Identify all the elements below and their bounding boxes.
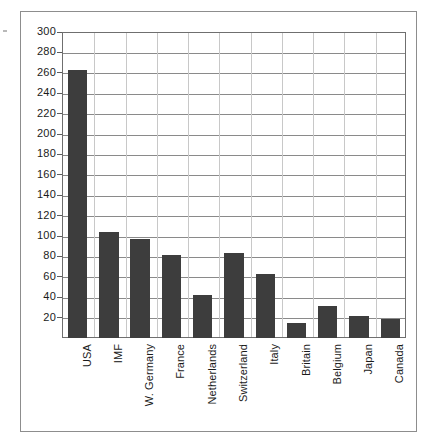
bar[interactable] — [287, 323, 306, 338]
bar[interactable] — [130, 239, 149, 338]
x-axis-tick-label: IMF — [113, 344, 124, 363]
y-axis-tick — [57, 174, 62, 175]
y-axis-tick-label: 220 — [26, 108, 56, 119]
y-axis-tick — [57, 317, 62, 318]
y-axis-tick — [57, 236, 62, 237]
y-axis-tick-label: 140 — [26, 189, 56, 200]
x-axis-tick-label: Japan — [363, 344, 374, 374]
y-axis-tick — [57, 297, 62, 298]
y-axis-tick-label: 60 — [26, 271, 56, 282]
x-axis-tick-label: Netherlands — [207, 344, 218, 404]
x-axis-tick-label: W. Germany — [144, 344, 155, 406]
y-axis: 2040608010012014016018020022024026028030… — [24, 0, 56, 445]
y-axis-tick-label: 80 — [26, 250, 56, 261]
x-axis-tick-label: France — [175, 344, 186, 379]
bar[interactable] — [349, 316, 368, 338]
y-axis-tick — [57, 154, 62, 155]
y-axis-tick-label: 40 — [26, 291, 56, 302]
x-axis-tick-label: Canada — [394, 344, 405, 383]
y-axis-tick-label: 280 — [26, 46, 56, 57]
bar[interactable] — [162, 255, 181, 338]
bar[interactable] — [99, 232, 118, 338]
x-axis-tick-label: Italy — [269, 344, 280, 365]
y-axis-tick-label: 100 — [26, 230, 56, 241]
bar-chart: 2040608010012014016018020022024026028030… — [0, 0, 431, 445]
y-axis-tick-label: 120 — [26, 210, 56, 221]
y-axis-tick-label: 260 — [26, 67, 56, 78]
bar[interactable] — [193, 295, 212, 338]
y-axis-tick — [57, 32, 62, 33]
bar[interactable] — [318, 306, 337, 338]
y-axis-tick-label: 160 — [26, 169, 56, 180]
bar[interactable] — [381, 319, 400, 338]
y-axis-tick-label: 200 — [26, 128, 56, 139]
bar[interactable] — [68, 70, 87, 338]
bar[interactable] — [224, 253, 243, 338]
y-axis-tick — [57, 276, 62, 277]
y-axis-tick-label: 20 — [26, 312, 56, 323]
y-axis-tick — [57, 113, 62, 114]
y-axis-tick — [57, 93, 62, 94]
x-axis: USAIMFW. GermanyFranceNetherlandsSwitzer… — [62, 338, 406, 445]
x-axis-tick-label: Switzerland — [238, 344, 249, 402]
y-axis-tick-label: 240 — [26, 87, 56, 98]
y-axis-tick — [57, 256, 62, 257]
x-axis-tick-label: USA — [82, 344, 93, 367]
bar[interactable] — [256, 274, 275, 338]
y-axis-tick-label: 180 — [26, 148, 56, 159]
y-axis-tick — [57, 195, 62, 196]
y-axis-tick — [57, 215, 62, 216]
x-axis-tick-label: Belgium — [332, 344, 343, 384]
y-axis-tick-label: 300 — [26, 26, 56, 37]
y-axis-tick — [57, 52, 62, 53]
y-axis-tick — [57, 72, 62, 73]
y-axis-tick — [57, 134, 62, 135]
bars-layer — [62, 32, 406, 338]
x-axis-tick-label: Britain — [301, 344, 312, 376]
